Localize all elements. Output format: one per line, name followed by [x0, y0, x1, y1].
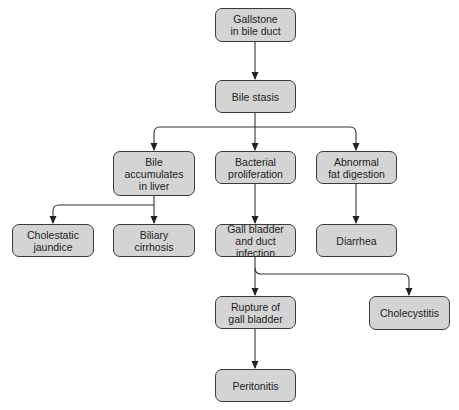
node-bile-accumulates: Bile accumulates in liver: [113, 151, 195, 196]
node-rupture: Rupture of gall bladder: [215, 296, 296, 329]
node-cholestatic-jaundice: Cholestatic jaundice: [12, 224, 94, 257]
node-gallstone: Gallstone in bile duct: [215, 8, 296, 42]
node-bacterial-proliferation: Bacterial proliferation: [215, 151, 296, 184]
node-gallbladder-infection: Gall bladder and duct infection: [215, 224, 296, 257]
node-peritonitis: Peritonitis: [215, 369, 296, 402]
node-abnormal-fat-digestion: Abnormal fat digestion: [316, 151, 397, 184]
node-bile-stasis: Bile stasis: [215, 80, 296, 113]
edges: [0, 0, 459, 410]
node-biliary-cirrhosis: Biliary cirrhosis: [113, 224, 195, 257]
node-diarrhea: Diarrhea: [316, 224, 397, 257]
node-cholecystitis: Cholecystitis: [369, 296, 450, 330]
